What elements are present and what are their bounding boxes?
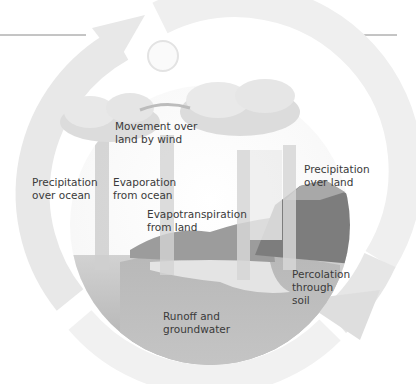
label-evaporation-from-ocean: Evaporation from ocean [113, 176, 176, 202]
sun [148, 41, 178, 71]
water-cycle-diagram: Movement over land by wind Precipitation… [0, 0, 416, 384]
label-precipitation-over-ocean: Precipitation over ocean [32, 176, 98, 202]
land-cloud [180, 79, 300, 136]
label-precipitation-over-land: Precipitation over land [304, 163, 370, 189]
label-percolation: Percolation through soil [292, 268, 350, 307]
label-runoff-groundwater: Runoff and groundwater [163, 310, 230, 336]
label-evapotranspiration: Evapotranspiration from land [147, 208, 247, 234]
label-movement-over-land: Movement over land by wind [115, 120, 197, 146]
